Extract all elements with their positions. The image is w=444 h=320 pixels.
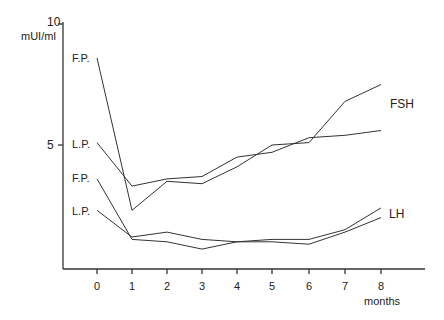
x-ticks: [97, 269, 381, 274]
fsh-fp-label: F.P.: [72, 52, 90, 64]
axes: [58, 22, 425, 274]
series-line-fsh-f-p-: [97, 58, 381, 210]
lh-series-label: LH: [389, 207, 404, 221]
series-line-lh-f-p-: [97, 179, 381, 249]
x-tick-label: 0: [94, 280, 100, 292]
series-line-fsh-l-p-: [97, 131, 381, 187]
x-tick-label: 7: [342, 280, 348, 292]
x-tick-label: 5: [269, 280, 275, 292]
x-tick-label: 1: [129, 280, 135, 292]
fsh-lp-label: L.P.: [72, 138, 90, 150]
lh-lp-label: L.P.: [72, 205, 90, 217]
x-tick-label: 2: [164, 280, 170, 292]
lh-fp-label: F.P.: [72, 172, 90, 184]
y-tick-label-5: 5: [47, 138, 54, 152]
series-lines: [97, 58, 381, 249]
x-tick-label: 4: [234, 280, 240, 292]
fsh-series-label: FSH: [390, 97, 414, 111]
y-tick-label-10: 10: [47, 15, 60, 29]
x-tick-label: 8: [378, 280, 384, 292]
x-axis-unit-label: months: [364, 295, 400, 307]
line-chart: [0, 0, 444, 320]
y-axis-unit-label: mUI/ml: [21, 30, 56, 42]
x-tick-label: 3: [199, 280, 205, 292]
x-tick-label: 6: [306, 280, 312, 292]
series-line-lh-l-p-: [97, 210, 381, 244]
